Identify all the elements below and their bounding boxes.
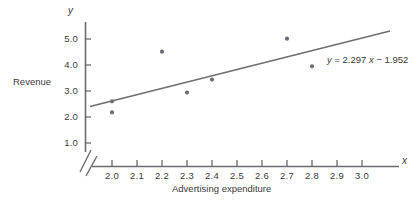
equation-intercept-term: − 1.952 bbox=[376, 54, 408, 65]
equation-slope-term: = 2.297 bbox=[334, 54, 366, 65]
regression-equation-annotation: y = 2.297 x − 1.952 bbox=[327, 54, 408, 65]
x-axis-ticks bbox=[112, 160, 362, 167]
x-tick-label-3-0: 3.0 bbox=[349, 170, 375, 181]
equation-y-term: y bbox=[327, 54, 332, 65]
y-tick-label-2: 2.0 bbox=[52, 111, 78, 122]
y-tick-label-5: 5.0 bbox=[52, 33, 78, 44]
x-tick-label-2-9: 2.9 bbox=[324, 170, 350, 181]
x-tick-label-2-6: 2.6 bbox=[249, 170, 275, 181]
y-tick-label-1: 1.0 bbox=[52, 137, 78, 148]
y-axis-title: Revenue bbox=[13, 76, 51, 87]
x-tick-label-2-3: 2.3 bbox=[174, 170, 200, 181]
y-axis-variable-letter: y bbox=[68, 5, 73, 16]
equation-x-term: x bbox=[369, 54, 374, 65]
x-tick-label-2-1: 2.1 bbox=[124, 170, 150, 181]
x-tick-label-2-0: 2.0 bbox=[99, 170, 125, 181]
y-axis-ticks bbox=[86, 39, 92, 143]
data-point bbox=[160, 50, 164, 54]
data-point bbox=[110, 99, 114, 103]
y-tick-label-3: 3.0 bbox=[52, 85, 78, 96]
scatter-chart: 5.0 4.0 3.0 2.0 1.0 2.0 2.1 2.2 2.3 2.4 … bbox=[0, 0, 419, 205]
x-tick-label-2-4: 2.4 bbox=[199, 170, 225, 181]
data-point bbox=[210, 78, 214, 82]
x-tick-label-2-2: 2.2 bbox=[149, 170, 175, 181]
data-point bbox=[310, 64, 314, 68]
data-point bbox=[110, 110, 114, 114]
x-axis-title: Advertising expenditure bbox=[172, 183, 271, 194]
x-tick-label-2-8: 2.8 bbox=[299, 170, 325, 181]
regression-line bbox=[90, 31, 390, 107]
x-tick-label-2-5: 2.5 bbox=[224, 170, 250, 181]
x-tick-label-2-7: 2.7 bbox=[274, 170, 300, 181]
y-tick-label-4: 4.0 bbox=[52, 59, 78, 70]
data-point bbox=[185, 91, 189, 95]
data-point bbox=[285, 37, 289, 41]
x-axis-variable-letter: x bbox=[402, 155, 407, 166]
